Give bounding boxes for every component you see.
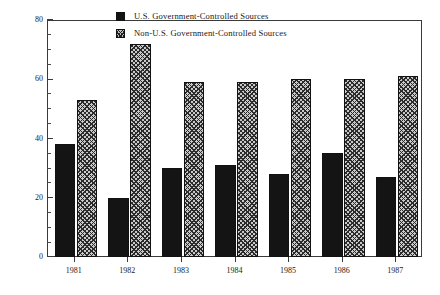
bar [291, 79, 312, 257]
bar [376, 177, 397, 257]
bar [108, 198, 129, 257]
bar [184, 82, 205, 257]
bar [55, 144, 76, 257]
legend-item-non-us-gov: Non-U.S. Government-Controlled Sources [116, 28, 287, 38]
bar [77, 100, 98, 257]
bar-chart: Percent of Network Stories 020406080 198… [0, 0, 440, 295]
bar [322, 153, 343, 257]
legend-swatch-hatch-icon [116, 29, 125, 38]
bar [215, 165, 236, 257]
bar [130, 44, 151, 257]
bar [162, 168, 183, 257]
legend-label: Non-U.S. Government-Controlled Sources [134, 28, 287, 38]
bars-layer [0, 0, 440, 295]
legend-swatch-solid-icon [116, 12, 125, 21]
legend-item-us-gov: U.S. Government-Controlled Sources [116, 11, 287, 21]
chart-legend: U.S. Government-Controlled Sources Non-U… [116, 11, 287, 38]
bar [237, 82, 258, 257]
bar [344, 79, 365, 257]
bar [269, 174, 290, 257]
legend-label: U.S. Government-Controlled Sources [134, 11, 268, 21]
bar [398, 76, 419, 257]
